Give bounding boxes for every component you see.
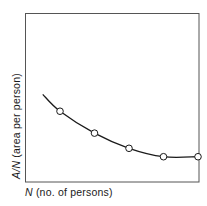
data-point-marker: [195, 153, 202, 160]
y-axis-description: (area per person): [10, 73, 22, 161]
y-axis-variable: A/N: [10, 161, 22, 179]
x-axis-variable: N: [25, 186, 33, 198]
x-axis-description: (no. of persons): [33, 186, 113, 198]
data-markers: [57, 108, 202, 160]
x-axis-label: N (no. of persons): [25, 186, 113, 198]
data-point-marker: [126, 145, 133, 152]
chart-canvas: [0, 0, 207, 206]
data-point-marker: [57, 108, 64, 115]
data-point-marker: [160, 153, 167, 160]
data-point-marker: [91, 130, 98, 137]
data-curve: [43, 94, 198, 157]
y-axis-label: A/N (area per person): [10, 73, 22, 179]
